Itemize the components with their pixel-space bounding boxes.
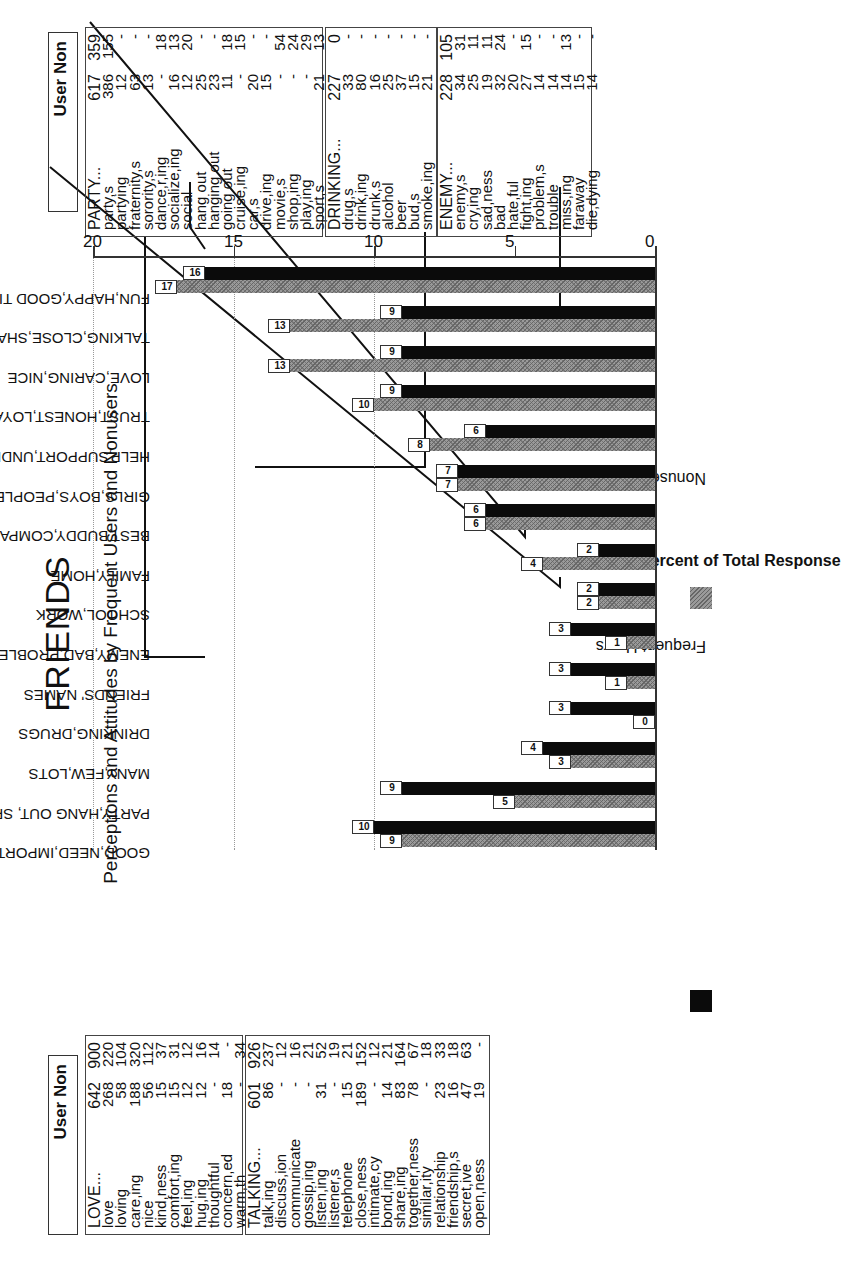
bar-nonusers xyxy=(290,359,655,372)
axis-tick-label: 5 xyxy=(505,232,514,252)
value-label-users: 9 xyxy=(380,345,402,359)
bar-frequent-users xyxy=(599,583,655,596)
value-label-users: 9 xyxy=(380,781,402,795)
value-label-nonusers: 7 xyxy=(436,478,458,492)
nonuser-count: - xyxy=(585,34,598,74)
nonuser-count: 13 xyxy=(312,34,325,74)
value-label-nonusers: 0 xyxy=(633,715,655,729)
category-axis xyxy=(655,258,657,850)
bar-frequent-users xyxy=(205,267,655,280)
category-label: TALKING,CLOSE,SHARING xyxy=(0,329,150,347)
bar-frequent-users xyxy=(402,385,655,398)
bar-frequent-users xyxy=(402,346,655,359)
nonuser-count: - xyxy=(246,34,259,74)
value-label-nonusers: 6 xyxy=(464,517,486,531)
value-label-nonusers: 5 xyxy=(493,795,515,809)
bar-frequent-users xyxy=(486,504,655,517)
value-label-nonusers: 13 xyxy=(268,359,290,373)
nonuser-count: - xyxy=(381,34,394,74)
user-count: - xyxy=(274,1082,287,1116)
nonuser-count: 14 xyxy=(207,1042,220,1082)
value-label-users: 3 xyxy=(549,662,571,676)
term: die,dying xyxy=(585,108,598,230)
user-count: 15 xyxy=(259,74,272,108)
axis-tick-label: 15 xyxy=(224,232,243,252)
nonuser-count: - xyxy=(368,34,381,74)
axis-tick-label: 20 xyxy=(83,232,102,252)
value-label-users: 9 xyxy=(380,305,402,319)
nonuser-count: - xyxy=(341,34,354,74)
category-label: FUN,HAPPY,GOOD TIMES xyxy=(0,290,150,308)
nonuser-count: 0 xyxy=(328,34,341,74)
user-count: - xyxy=(288,1082,301,1116)
nonuser-count: - xyxy=(472,1042,485,1082)
value-label-nonusers: 17 xyxy=(155,280,177,294)
right-table-header: User Non xyxy=(48,1055,78,1235)
drinking-table: DRINKING...2270drug,s33-drink,ing80-drun… xyxy=(325,27,437,237)
user-count: 18 xyxy=(220,1082,233,1116)
category-label: DRINKING,DRUGS xyxy=(0,725,150,743)
value-label-users: 3 xyxy=(549,701,571,715)
category-label: GIRLS,BOYS,PEOPLE xyxy=(0,488,150,506)
legend-swatch-nonusers xyxy=(690,587,712,609)
value-label-nonusers: 10 xyxy=(352,398,374,412)
nonuser-count: 13 xyxy=(559,34,572,74)
category-label: HELP,SUPPORT,UNDERSTAND xyxy=(0,448,150,466)
user-count: 189 xyxy=(354,1082,367,1116)
value-label-users: 16 xyxy=(183,266,205,280)
user-count: 12 xyxy=(194,1082,207,1116)
nonuser-count: - xyxy=(128,34,141,74)
love-table: LOVE...642900love268220loving58104care,i… xyxy=(85,1035,243,1235)
enemy-table: ENEMY...228105enemy,s3431cry,ing2511sad,… xyxy=(437,27,592,237)
bar-frequent-users xyxy=(374,821,655,834)
bar-nonusers xyxy=(402,834,655,847)
value-label-users: 2 xyxy=(577,543,599,557)
bar-nonusers xyxy=(627,636,655,649)
term: smoke,ing xyxy=(420,108,433,230)
nonuser-count: 15 xyxy=(233,34,246,74)
bar-nonusers xyxy=(430,438,655,451)
value-label-users: 3 xyxy=(549,622,571,636)
user-count: - xyxy=(286,74,299,108)
nonuser-count: - xyxy=(420,34,433,74)
enemy-table-row: die,dying14- xyxy=(585,34,598,230)
nonuser-count: - xyxy=(114,34,127,74)
category-label: BEST,BUDDY,COMPANION xyxy=(0,527,150,545)
bar-nonusers xyxy=(458,478,655,491)
bar-nonusers xyxy=(599,596,655,609)
bar-nonusers xyxy=(177,280,655,293)
axis-tick xyxy=(655,246,657,258)
category-label: SCHOOL,WORK xyxy=(0,606,150,624)
legend-swatch-users xyxy=(690,990,712,1012)
axis-tick xyxy=(515,246,517,258)
value-label-users: 9 xyxy=(380,384,402,398)
user-count: - xyxy=(273,74,286,108)
user-count: 13 xyxy=(141,74,154,108)
user-count: 14 xyxy=(585,74,598,108)
value-label-nonusers: 4 xyxy=(521,557,543,571)
bar-frequent-users xyxy=(599,544,655,557)
user-count: 19 xyxy=(472,1082,485,1116)
term: open,ness xyxy=(472,1116,485,1228)
value-label-nonusers: 9 xyxy=(380,834,402,848)
value-label-nonusers: 3 xyxy=(549,755,571,769)
value-label-nonusers: 8 xyxy=(408,438,430,452)
axis-tick-label: 10 xyxy=(364,232,383,252)
nonuser-count: 20 xyxy=(180,34,193,74)
nonuser-count: - xyxy=(354,34,367,74)
drinking-table-row: smoke,ing21- xyxy=(420,34,433,230)
category-label: FAMILY,HOME xyxy=(0,567,150,585)
nonuser-count: 155 xyxy=(101,34,114,74)
left-table-header: User Non xyxy=(48,32,78,212)
bar-nonusers xyxy=(290,319,655,332)
nonuser-count: - xyxy=(407,34,420,74)
value-label-nonusers: 13 xyxy=(268,319,290,333)
bar-frequent-users xyxy=(458,465,655,478)
bar-frequent-users xyxy=(486,425,655,438)
bar-frequent-users xyxy=(571,663,655,676)
nonuser-count: - xyxy=(532,34,545,74)
axis-tick-label: 0 xyxy=(645,232,654,252)
nonuser-count: - xyxy=(572,34,585,74)
category-label: MANY,FEW,LOTS xyxy=(0,765,150,783)
